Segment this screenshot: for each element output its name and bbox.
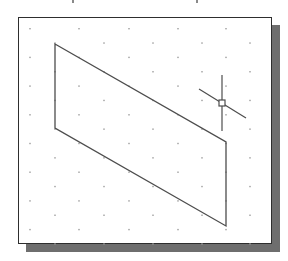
grid-dot	[177, 143, 178, 144]
grid-dot	[128, 200, 129, 201]
grid-dot	[128, 114, 129, 115]
grid-dot	[78, 143, 79, 144]
grid-dot	[54, 157, 55, 158]
grid-dot	[249, 100, 250, 101]
grid-dot	[103, 243, 104, 244]
grid-dot	[201, 215, 202, 216]
grid-dot	[249, 42, 250, 43]
parallelogram-shape[interactable]	[55, 44, 226, 226]
grid-dot	[201, 243, 202, 244]
grid-dot	[29, 85, 30, 86]
grid-dot	[29, 143, 30, 144]
grid-dot	[201, 100, 202, 101]
grid-dot	[54, 243, 55, 244]
grid-dot	[152, 243, 153, 244]
grid-dot	[78, 172, 79, 173]
grid-dot	[78, 200, 79, 201]
grid-dot	[177, 200, 178, 201]
grid-dot	[103, 186, 104, 187]
grid-dot	[128, 28, 129, 29]
grid-dot	[152, 157, 153, 158]
grid-dot	[78, 229, 79, 230]
grid-dot	[177, 28, 178, 29]
grid-dot	[29, 57, 30, 58]
grid-dot	[128, 57, 129, 58]
grid-dot	[54, 186, 55, 187]
grid-dot	[103, 42, 104, 43]
grid-dot	[249, 186, 250, 187]
grid-dot	[152, 215, 153, 216]
grid-dot	[29, 200, 30, 201]
grid-dot	[128, 172, 129, 173]
grid-dot	[29, 114, 30, 115]
grid-dot	[201, 71, 202, 72]
grid-dot	[152, 128, 153, 129]
grid-dot	[225, 229, 226, 230]
grid-dot	[249, 157, 250, 158]
grid-dot	[201, 157, 202, 158]
cut-off-text-descender	[196, 0, 198, 3]
grid-dot	[78, 28, 79, 29]
isometric-dot-grid	[29, 28, 250, 245]
pickbox-icon	[219, 100, 225, 106]
grid-dot	[177, 172, 178, 173]
grid-dot	[177, 229, 178, 230]
grid-dot	[249, 243, 250, 244]
grid-dot	[103, 157, 104, 158]
cut-off-text-descender	[72, 0, 74, 3]
grid-dot	[78, 114, 79, 115]
grid-dot	[29, 28, 30, 29]
grid-dot	[225, 28, 226, 29]
grid-dot	[128, 229, 129, 230]
grid-dot	[249, 71, 250, 72]
grid-dot	[225, 85, 226, 86]
grid-dot	[103, 100, 104, 101]
grid-dot	[152, 42, 153, 43]
grid-dot	[201, 42, 202, 43]
crosshair-cursor-icon	[199, 75, 246, 131]
grid-dot	[29, 229, 30, 230]
grid-dot	[29, 172, 30, 173]
isometric-drawing-figure	[0, 0, 288, 261]
grid-dot	[201, 186, 202, 187]
grid-dot	[225, 114, 226, 115]
grid-dot	[152, 71, 153, 72]
grid-dot	[177, 85, 178, 86]
grid-dot	[249, 128, 250, 129]
grid-dot	[78, 85, 79, 86]
grid-dot	[249, 215, 250, 216]
grid-dot	[225, 57, 226, 58]
grid-dot	[103, 215, 104, 216]
grid-dot	[54, 215, 55, 216]
grid-dot	[177, 57, 178, 58]
grid-dot	[128, 143, 129, 144]
drawing-area[interactable]	[0, 0, 288, 261]
grid-dot	[152, 186, 153, 187]
grid-dot	[103, 128, 104, 129]
